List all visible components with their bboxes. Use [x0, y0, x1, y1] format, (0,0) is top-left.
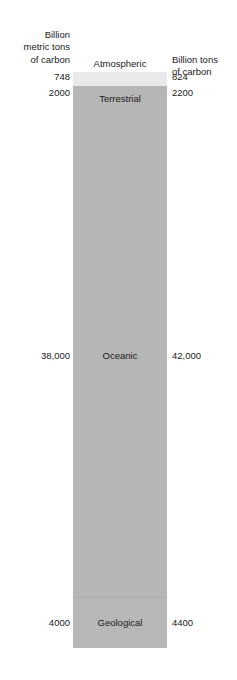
right-value-geological: 4400: [172, 617, 193, 628]
left-value-terrestrial: 2000: [49, 87, 70, 98]
segment-label-oceanic: Oceanic: [73, 350, 167, 361]
bar-segment-atmospheric: [73, 72, 167, 86]
left-axis-header-line-1: Billion: [24, 29, 70, 41]
left-value-geological: 4000: [49, 617, 70, 628]
left-axis-header-line-3: of carbon: [24, 54, 70, 66]
segment-label-terrestrial: Terrestrial: [73, 93, 167, 104]
right-value-atmospheric: 824: [172, 71, 188, 82]
left-value-oceanic: 38,000: [41, 350, 70, 361]
left-value-atmospheric: 748: [54, 71, 70, 82]
right-value-terrestrial: 2200: [172, 87, 193, 98]
right-value-oceanic: 42,000: [172, 350, 201, 361]
left-axis-header: Billion metric tons of carbon: [24, 29, 70, 66]
right-axis-header-line-1: Billion tons: [172, 54, 218, 66]
bar-segment-oceanic: [73, 86, 167, 597]
segment-label-geological: Geological: [73, 617, 167, 628]
left-axis-header-line-2: metric tons: [24, 41, 70, 53]
stacked-bar: Atmospheric Terrestrial Oceanic Geologic…: [73, 72, 167, 648]
segment-label-atmospheric: Atmospheric: [73, 58, 167, 69]
carbon-reservoir-stacked-bar-figure: Billion metric tons of carbon Billion to…: [0, 0, 237, 680]
